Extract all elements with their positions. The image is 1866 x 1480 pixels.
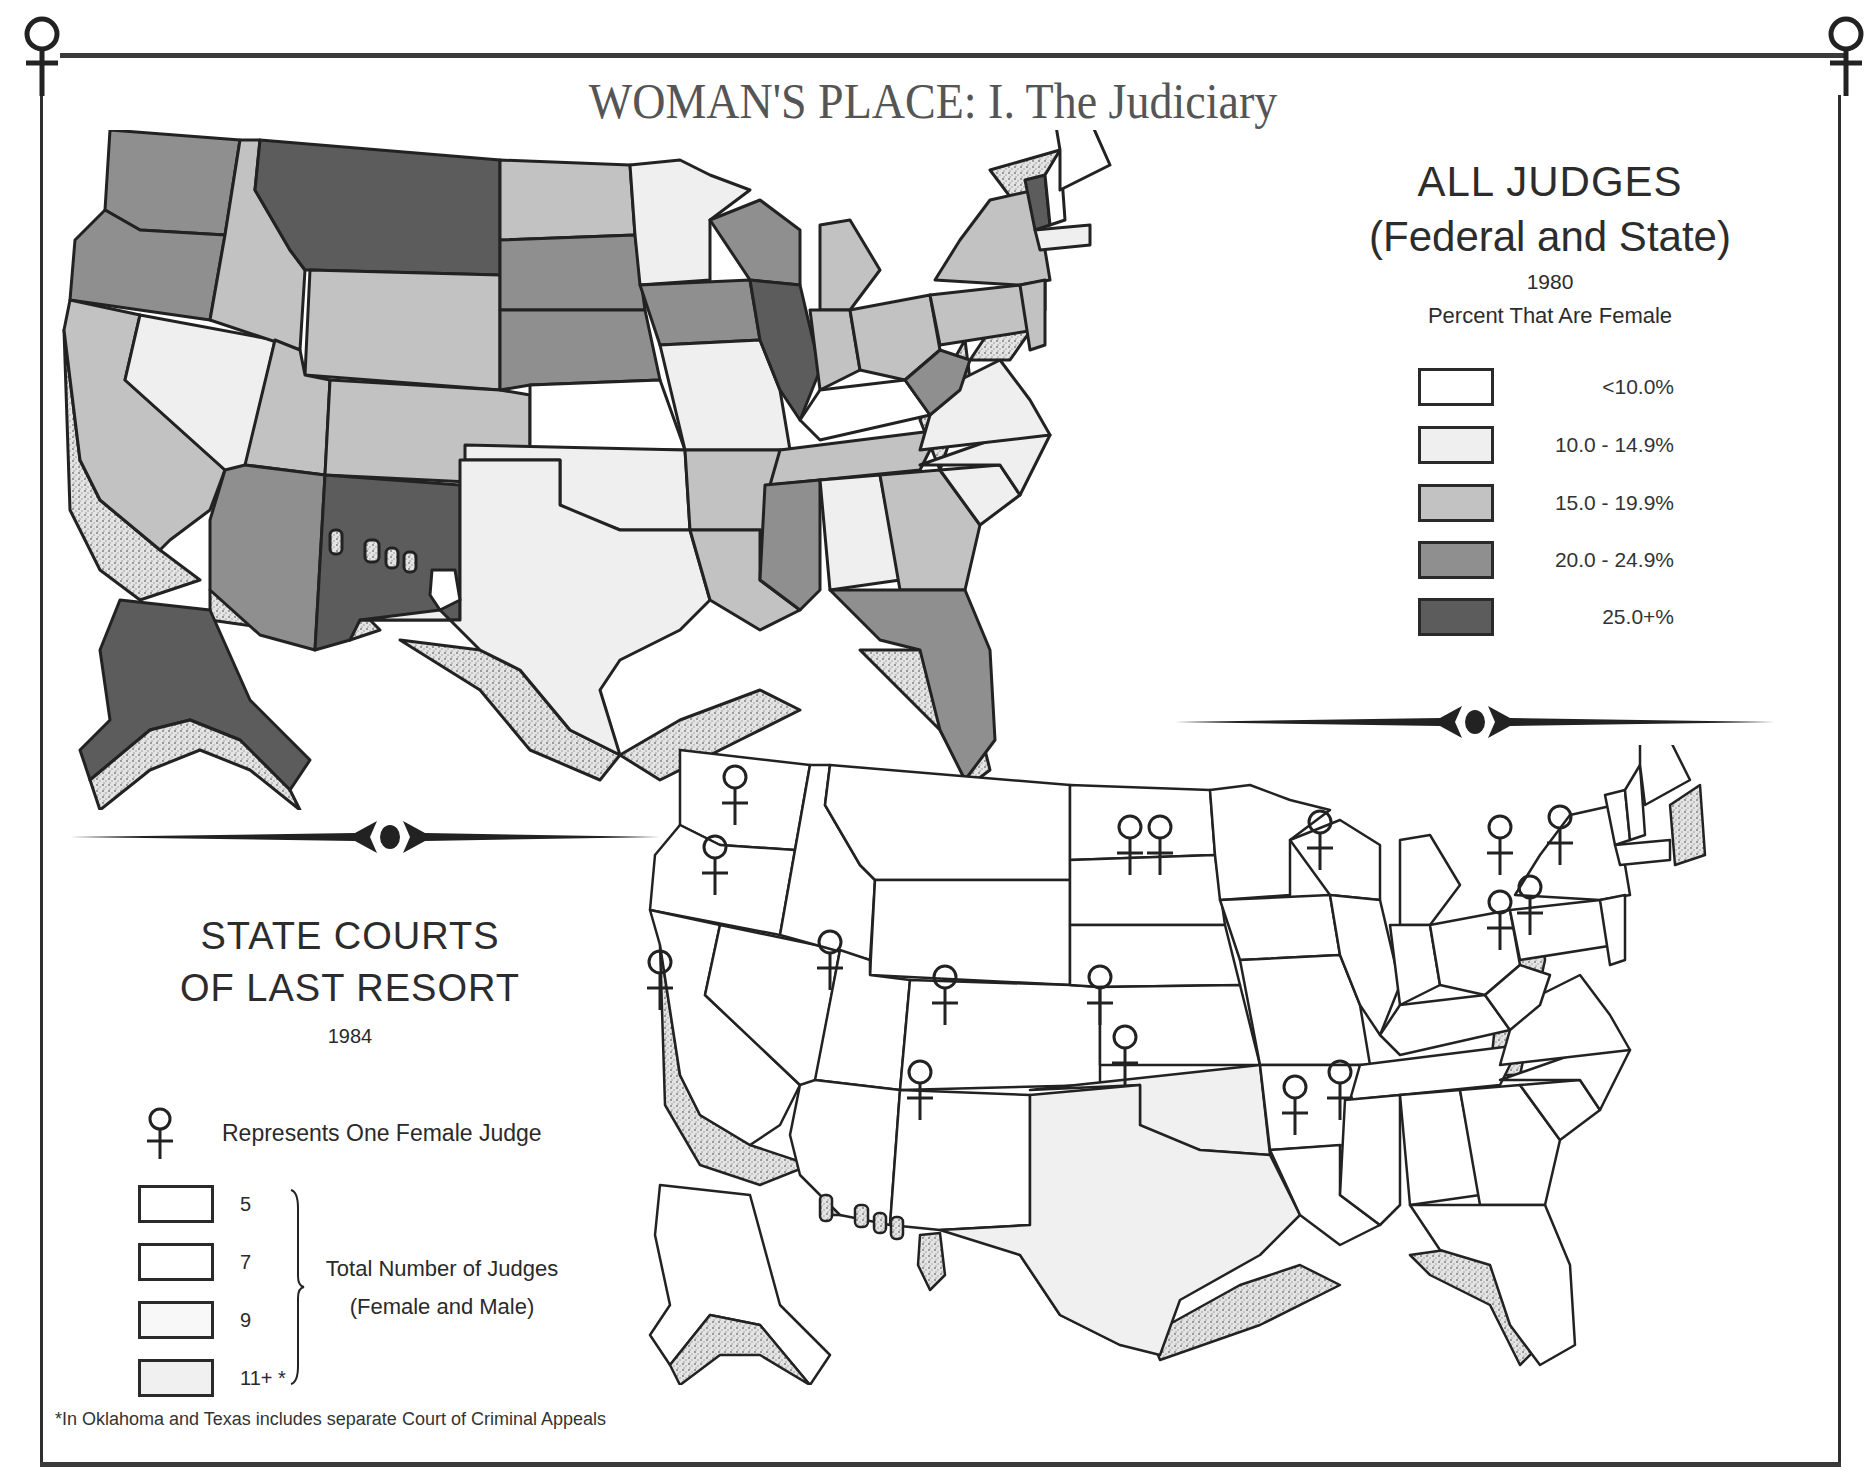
frame-right-rule	[1838, 95, 1841, 1465]
size-class-row: 5	[138, 1175, 286, 1233]
state-courts-legend-title: STATE COURTS OF LAST RESORT	[150, 910, 550, 1014]
legend-year: 1980	[1300, 265, 1800, 299]
legend-swatch	[1418, 541, 1494, 579]
footnote: *In Oklahoma and Texas includes separate…	[55, 1409, 606, 1430]
frame-top-rule	[60, 53, 1844, 58]
frame-left-rule	[40, 95, 43, 1465]
legend-class-row: 15.0 - 19.9%	[1418, 484, 1674, 522]
size-class-row: 11+ *	[138, 1349, 286, 1407]
legend-swatch	[1418, 484, 1494, 522]
symbol-legend-row: Represents One Female Judge	[140, 1105, 542, 1161]
legend-swatch	[1418, 426, 1494, 464]
size-swatch	[138, 1243, 214, 1281]
legend-class-row: 10.0 - 14.9%	[1418, 426, 1674, 464]
size-class-row: 9	[138, 1291, 286, 1349]
legend-class-label: 20.0 - 24.9%	[1534, 548, 1674, 572]
female-symbol-icon	[140, 1105, 180, 1161]
legend-class-label: 25.0+%	[1534, 605, 1674, 629]
state-courts-symbol-map	[640, 745, 1820, 1385]
legend-heading: ALL JUDGES	[1300, 155, 1800, 209]
size-class-label: 9	[240, 1309, 251, 1332]
legend-class-label: 10.0 - 14.9%	[1534, 433, 1674, 457]
size-class-label: 5	[240, 1193, 251, 1216]
legend-class-label: 15.0 - 19.9%	[1534, 491, 1674, 515]
frame-bottom-rule	[40, 1462, 1841, 1467]
symbol-legend-label: Represents One Female Judge	[222, 1120, 542, 1147]
all-judges-legend: ALL JUDGES (Federal and State) 1980 Perc…	[1300, 155, 1800, 333]
size-swatch	[138, 1301, 214, 1339]
total-judges-label: Total Number of Judges (Female and Male)	[302, 1250, 582, 1326]
size-class-label: 7	[240, 1251, 251, 1274]
divider-ornament	[1170, 700, 1780, 744]
legend-class-row: 25.0+%	[1418, 598, 1674, 636]
female-symbol-icon	[16, 8, 72, 104]
legend-year: 1984	[150, 1025, 550, 1048]
all-judges-choropleth-map	[60, 130, 1260, 810]
size-swatch	[138, 1185, 214, 1223]
legend-class-label: <10.0%	[1534, 375, 1674, 399]
legend-measure: Percent That Are Female	[1300, 299, 1800, 333]
female-symbol-icon	[1820, 8, 1866, 104]
legend-class-row: <10.0%	[1418, 368, 1674, 406]
size-class-label: 11+ *	[240, 1367, 286, 1390]
legend-subheading: (Federal and State)	[1300, 209, 1800, 265]
legend-class-row: 20.0 - 24.9%	[1418, 541, 1674, 579]
legend-swatch	[1418, 368, 1494, 406]
legend-subheading: OF LAST RESORT	[150, 962, 550, 1014]
legend-heading: STATE COURTS	[150, 910, 550, 962]
size-class-list: 5 7 9 11+ *	[138, 1175, 286, 1407]
legend-swatch	[1418, 598, 1494, 636]
size-swatch	[138, 1359, 214, 1397]
divider-ornament	[65, 815, 665, 859]
page-title: WOMAN'S PLACE: I. The Judiciary	[75, 72, 1792, 130]
size-class-row: 7	[138, 1233, 286, 1291]
